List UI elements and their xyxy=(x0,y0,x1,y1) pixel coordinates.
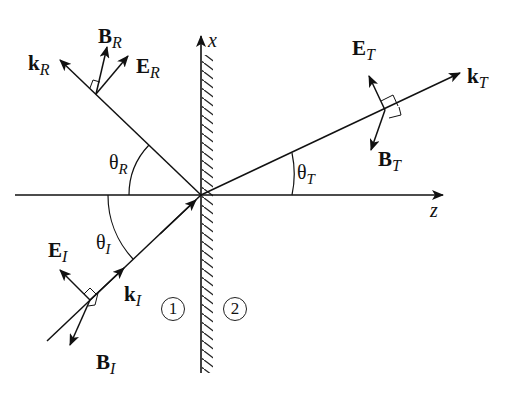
incident-wave xyxy=(47,195,201,345)
theta-i-arc xyxy=(108,195,133,259)
b-incident-label: BI xyxy=(96,352,115,377)
theta-t-label: θT xyxy=(297,162,315,187)
e-reflected-label: ER xyxy=(136,56,160,81)
theta-r-label: θR xyxy=(109,152,128,177)
z-axis-label: z xyxy=(430,200,438,220)
k-transmitted-label: kT xyxy=(467,66,488,91)
theta-i-label: θI xyxy=(96,232,111,257)
k-incident-label: kI xyxy=(124,284,141,309)
b-transmitted-label: BT xyxy=(378,149,401,174)
em-wave-reflection-diagram: x z kR BR ER ET kT BT EI kI BI θR θI θT … xyxy=(0,0,511,399)
medium-1-label: 1 xyxy=(161,297,185,321)
reflected-wave xyxy=(60,47,201,195)
x-axis-label: x xyxy=(208,30,217,50)
k-reflected-label: kR xyxy=(28,53,49,78)
e-incident-label: EI xyxy=(48,240,67,265)
transmitted-wave xyxy=(201,73,460,195)
e-transmitted-label: ET xyxy=(352,38,375,63)
theta-r-arc xyxy=(129,145,149,195)
interface-hatching xyxy=(202,55,213,373)
theta-t-arc xyxy=(292,153,294,195)
b-reflected-label: BR xyxy=(98,26,122,51)
medium-2-label: 2 xyxy=(223,297,247,321)
